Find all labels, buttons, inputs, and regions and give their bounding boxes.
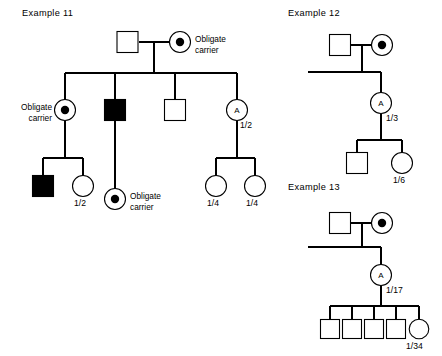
annotation-obligate-carrier-top: Obligate carrier (195, 34, 226, 55)
carrier-dot-icon (378, 41, 386, 49)
risk-label-e11-gen3-right: 1/4 (246, 198, 258, 208)
example-13-group: A (308, 213, 429, 339)
example-13-title: Example 13 (288, 182, 340, 192)
symbol-female-unaffected (392, 153, 413, 174)
annotation-obligate-carrier-left: Obligate carrier (2, 102, 52, 123)
symbol-female-unaffected (245, 176, 266, 197)
annotation-line-1: Obligate (2, 102, 52, 113)
annotation-line-1: Obligate (195, 34, 226, 45)
example-11-group: A (33, 32, 266, 210)
carrier-dot-icon (176, 38, 184, 46)
pedigree-figure: A (0, 0, 442, 356)
symbol-male-unaffected (117, 32, 138, 53)
symbol-inner-label-a: A (378, 99, 384, 108)
symbol-male-unaffected (330, 35, 351, 56)
risk-label-e11-gen2: 1/2 (240, 120, 252, 130)
carrier-dot-icon (378, 219, 386, 227)
risk-label-e11-gen3-left: 1/2 (74, 198, 86, 208)
annotation-line-2: carrier (2, 113, 52, 124)
annotation-line-2: carrier (195, 45, 226, 56)
symbol-male-affected (33, 176, 54, 197)
example-12-group: A (308, 35, 413, 174)
risk-label-e13-gen3: 1/34 (406, 341, 423, 351)
risk-label-e13-gen2: 1/17 (386, 285, 403, 295)
symbol-male-unaffected (347, 153, 368, 174)
symbol-male-affected (105, 100, 126, 121)
carrier-dot-icon (61, 106, 69, 114)
risk-label-e11-gen3-mid: 1/4 (207, 198, 219, 208)
annotation-obligate-carrier-middle: Obligate carrier (130, 191, 161, 212)
symbol-inner-label-a: A (234, 106, 240, 115)
symbol-female-unaffected (409, 319, 429, 339)
symbol-male-unaffected (330, 213, 351, 234)
symbol-male-unaffected (365, 320, 384, 339)
symbol-female-unaffected (73, 176, 94, 197)
symbol-male-unaffected (387, 320, 406, 339)
symbol-male-unaffected (321, 320, 340, 339)
symbol-male-unaffected (343, 320, 362, 339)
symbol-female-unaffected (206, 176, 227, 197)
annotation-line-2: carrier (130, 202, 161, 213)
example-11-title: Example 11 (22, 8, 73, 18)
example-12-title: Example 12 (288, 8, 340, 18)
risk-label-e12-gen2: 1/3 (386, 113, 398, 123)
annotation-line-1: Obligate (130, 191, 161, 202)
carrier-dot-icon (111, 195, 119, 203)
symbol-male-unaffected (165, 100, 186, 121)
symbol-inner-label-a: A (378, 271, 384, 280)
risk-label-e12-gen3: 1/6 (393, 175, 405, 185)
